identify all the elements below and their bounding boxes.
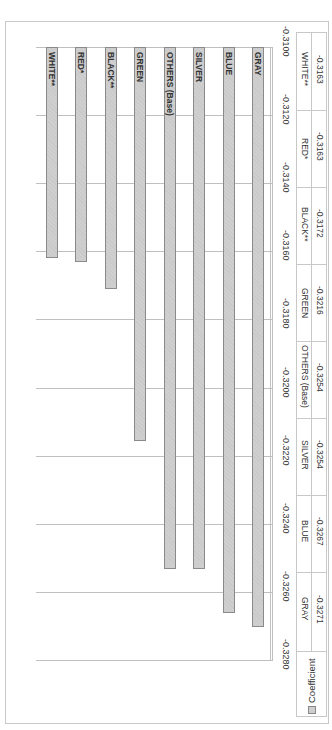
- table-value: -0.3163: [315, 55, 325, 84]
- gridline: [36, 660, 273, 661]
- table-header: GREEN: [300, 288, 310, 318]
- tick-label: -0.3120: [281, 94, 291, 125]
- gridline: [36, 456, 273, 457]
- bar-label-others-base: OTHERS (Base): [165, 52, 175, 116]
- gridline: [36, 319, 273, 320]
- gridline: [36, 183, 273, 184]
- category-axis-line: [270, 47, 273, 661]
- table-header: BLUE: [300, 520, 310, 542]
- bar-label-silver: SILVER: [194, 52, 204, 82]
- tick-label: -0.3160: [281, 230, 291, 261]
- bar-label-black: BLACK**: [106, 52, 116, 88]
- table-header: OTHERS (Base): [300, 345, 310, 408]
- table-header: SILVER: [300, 440, 310, 470]
- table-value: -0.3216: [315, 286, 325, 315]
- table-value: -0.3254: [315, 363, 325, 392]
- legend-label: Coefficient: [306, 658, 317, 703]
- tick-label: -0.3100: [281, 26, 291, 57]
- bar-label-white: WHITE**: [47, 52, 57, 86]
- table-header: WHITE**: [300, 52, 310, 86]
- bar-silver: [193, 47, 205, 569]
- legend-entry: Coefficient: [306, 658, 317, 714]
- table-header: BLACK**: [300, 207, 310, 242]
- bar-label-blue: BLUE: [224, 52, 234, 75]
- legend-swatch-icon: [308, 706, 316, 714]
- tick-label: -0.3200: [281, 367, 291, 398]
- bar-label-green: GREEN: [135, 52, 145, 82]
- gridline: [36, 251, 273, 252]
- tick-label: -0.3260: [281, 571, 291, 602]
- gridline: [36, 524, 273, 525]
- tick-label: -0.3140: [281, 162, 291, 193]
- tick-label: -0.3280: [281, 639, 291, 670]
- table-value: -0.3163: [315, 132, 325, 161]
- gridline: [36, 592, 273, 593]
- bar-green: [134, 47, 146, 441]
- bar-gray: [252, 47, 264, 627]
- table-header: GRAY: [300, 597, 310, 620]
- tick-label: -0.3240: [281, 503, 291, 534]
- table-value: -0.3267: [315, 517, 325, 546]
- bar-label-red: RED*: [76, 52, 86, 73]
- gridline: [36, 115, 273, 116]
- tick-label: -0.3180: [281, 298, 291, 329]
- bar-others-base: [164, 47, 176, 569]
- table-value: -0.3254: [315, 440, 325, 469]
- tick-label: -0.3220: [281, 435, 291, 466]
- gridline: [36, 47, 273, 48]
- table-value: -0.3271: [315, 595, 325, 624]
- gridline: [36, 388, 273, 389]
- bar-blue: [223, 47, 235, 613]
- table-header: RED*: [300, 138, 310, 159]
- data-table: [296, 32, 327, 652]
- bar-red: [75, 47, 87, 262]
- table-value: -0.3172: [315, 209, 325, 238]
- bar-label-gray: GRAY: [253, 52, 263, 76]
